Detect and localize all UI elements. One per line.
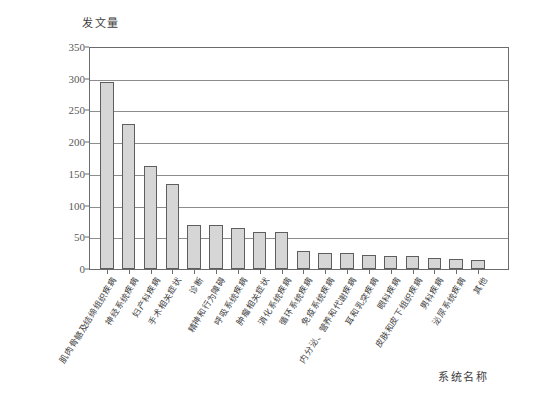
y-axis-tick-label: 300	[45, 73, 85, 85]
x-axis-tick-mark	[107, 270, 108, 274]
bar	[275, 232, 289, 269]
x-axis-tick-mark	[347, 270, 348, 274]
bar	[297, 251, 311, 269]
x-axis-tick-mark	[434, 270, 435, 274]
x-axis-tick-mark	[260, 270, 261, 274]
bar	[449, 259, 463, 269]
bar	[100, 82, 114, 269]
x-axis-tick-mark	[172, 270, 173, 274]
y-axis-tick-label: 200	[45, 136, 85, 148]
x-axis-tick-mark	[456, 270, 457, 274]
x-axis-title: 系统名称	[438, 368, 488, 384]
y-axis-tick-label: 150	[45, 168, 85, 180]
y-axis-tick-label: 350	[45, 41, 85, 53]
bar	[471, 260, 485, 270]
x-axis-tick-mark	[282, 270, 283, 274]
x-axis-tick-mark	[325, 270, 326, 274]
bar	[166, 184, 180, 269]
x-axis-tick-mark	[413, 270, 414, 274]
bar	[362, 255, 376, 269]
x-axis-tick-mark	[391, 270, 392, 274]
bar	[384, 256, 398, 269]
x-axis-tick-mark	[216, 270, 217, 274]
x-axis-tick-mark	[238, 270, 239, 274]
bar-series	[90, 47, 508, 269]
y-axis-tick-label: 250	[45, 104, 85, 116]
bar	[187, 225, 201, 269]
bar	[406, 256, 420, 269]
bar	[428, 258, 442, 269]
bar	[209, 225, 223, 269]
x-axis-tick-mark	[194, 270, 195, 274]
bar	[231, 228, 245, 269]
x-axis-tick-mark	[129, 270, 130, 274]
x-axis-category-label: 其他	[472, 276, 489, 296]
bar	[253, 232, 267, 269]
x-axis-tick-mark	[478, 270, 479, 274]
bar-chart-figure: 发文量 050100150200250300350 肌肉骨骼及结缔组织疾病神经系…	[0, 0, 533, 408]
bar	[122, 124, 136, 269]
bar	[144, 166, 158, 269]
bar	[340, 253, 354, 269]
y-axis-tick-label: 0	[45, 263, 85, 275]
x-axis-tick-mark	[369, 270, 370, 274]
y-axis-title: 发文量	[82, 14, 120, 30]
bar	[318, 253, 332, 269]
x-axis-tick-mark	[303, 270, 304, 274]
x-axis-tick-mark	[151, 270, 152, 274]
y-axis-tick-label: 100	[45, 200, 85, 212]
y-axis-tick-label: 50	[45, 231, 85, 243]
x-axis-category-label: 诊断	[189, 276, 206, 296]
